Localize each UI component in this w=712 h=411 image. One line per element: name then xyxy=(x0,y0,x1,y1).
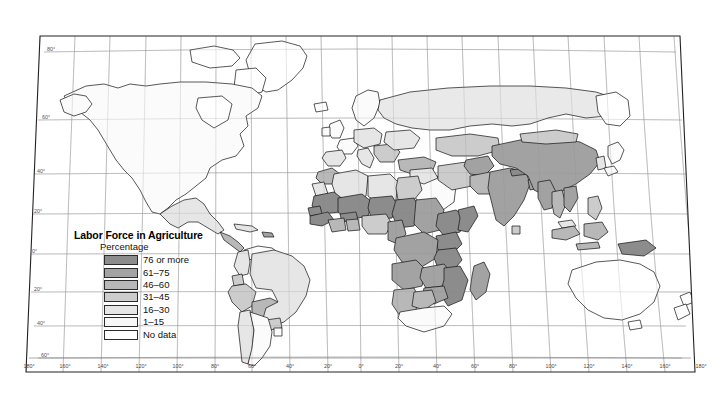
region-tasmania xyxy=(628,320,642,330)
latitude-tick-label: 20° xyxy=(34,208,42,214)
longitude-tick-label: 60° xyxy=(248,363,256,369)
longitude-tick-label: 40° xyxy=(286,363,294,369)
legend-swatch xyxy=(104,292,138,302)
legend-title: Labor Force in Agriculture xyxy=(74,229,226,241)
world-map-canvas: 180°160°140°120°100°80°60°40°20°0°20°40°… xyxy=(0,0,712,411)
latitude-tick-label: 40° xyxy=(37,168,45,174)
longitude-tick-label: 120° xyxy=(583,363,594,369)
legend-subtitle: Percentage xyxy=(100,241,226,253)
region-kazakhstan xyxy=(436,134,500,156)
longitude-tick-label: 160° xyxy=(659,363,670,369)
legend-label: No data xyxy=(143,330,176,340)
legend-row: 16–30 xyxy=(104,304,226,316)
longitude-tick-label: 80° xyxy=(211,363,219,369)
longitude-tick-label: 100° xyxy=(545,363,556,369)
region-iceland xyxy=(314,102,328,112)
region-sri-lanka xyxy=(512,226,520,234)
legend-label: 76 or more xyxy=(143,255,189,265)
legend-row: 31–45 xyxy=(104,291,226,303)
latitude-tick-label: 60° xyxy=(41,352,49,358)
legend-swatch xyxy=(104,280,138,290)
map-legend: Labor Force in Agriculture Percentage 76… xyxy=(74,229,226,341)
latitude-tick-label: 20° xyxy=(34,286,42,292)
longitude-tick-label: 140° xyxy=(97,363,108,369)
longitude-tick-label: 120° xyxy=(135,363,146,369)
longitude-tick-label: 60° xyxy=(471,363,479,369)
legend-row: 76 or more xyxy=(104,254,226,266)
region-uruguay xyxy=(274,328,282,336)
latitude-tick-label: 0° xyxy=(32,248,37,254)
longitude-tick-label: 40° xyxy=(433,363,441,369)
legend-row: 46–60 xyxy=(104,279,226,291)
legend-row: 1–15 xyxy=(104,316,226,328)
longitude-tick-label: 160° xyxy=(59,363,70,369)
latitude-tick-label: 40° xyxy=(37,320,45,326)
legend-row: 61–75 xyxy=(104,266,226,278)
map-body xyxy=(0,0,712,411)
legend-label: 61–75 xyxy=(143,268,169,278)
longitude-tick-label: 20° xyxy=(395,363,403,369)
longitude-tick-label: 140° xyxy=(621,363,632,369)
longitude-tick-label: 100° xyxy=(172,363,183,369)
legend-swatch xyxy=(104,317,138,327)
longitude-tick-label: 20° xyxy=(324,363,332,369)
legend-label: 1–15 xyxy=(143,317,164,327)
legend-items: 76 or more61–7546–6031–4516–301–15No dat… xyxy=(104,254,226,341)
world-map-figure: 180°160°140°120°100°80°60°40°20°0°20°40°… xyxy=(0,0,712,411)
legend-label: 46–60 xyxy=(143,280,169,290)
legend-label: 31–45 xyxy=(143,292,169,302)
legend-row: No data xyxy=(104,328,226,340)
latitude-tick-label: 60° xyxy=(42,114,50,120)
longitude-tick-label: 80° xyxy=(509,363,517,369)
longitude-tick-label: 180° xyxy=(23,363,34,369)
region-hispaniola xyxy=(262,232,274,237)
region-nigeria xyxy=(362,214,392,234)
legend-swatch xyxy=(104,305,138,315)
legend-swatch xyxy=(104,255,138,265)
legend-swatch xyxy=(104,330,138,340)
longitude-tick-label: 180° xyxy=(695,363,706,369)
legend-label: 16–30 xyxy=(143,305,169,315)
legend-swatch xyxy=(104,268,138,278)
longitude-tick-label: 0° xyxy=(358,363,363,369)
latitude-tick-label: 80° xyxy=(47,46,55,52)
region-ghana xyxy=(346,219,360,231)
